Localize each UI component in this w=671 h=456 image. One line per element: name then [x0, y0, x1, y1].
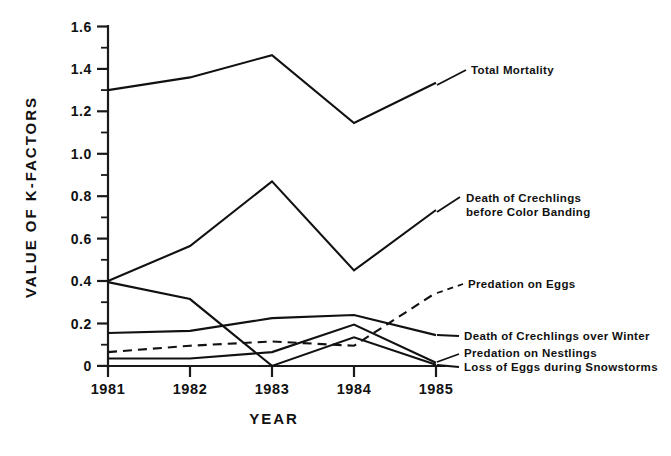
annotation-total-mortality: Total Mortality: [471, 64, 554, 76]
leader-total-mortality: [437, 70, 466, 85]
x-axis: 1981 1982 1983 1984 1985 YEAR: [91, 366, 454, 427]
y-label-1.0: 1.0: [71, 146, 92, 162]
y-label-0.4: 0.4: [71, 273, 92, 289]
series-group: [108, 55, 436, 366]
y-label-1.6: 1.6: [71, 19, 92, 35]
leader-crechlings-winter: [437, 335, 459, 336]
y-label-1.2: 1.2: [71, 103, 92, 119]
x-label-1982: 1982: [173, 381, 208, 397]
leader-crechlings-banding: [437, 197, 460, 212]
y-axis: 1.6 1.4 1.2 1.0 0.8 0.6 0.4 0.2 0 VALUE …: [22, 19, 108, 375]
y-axis-title: VALUE OF K-FACTORS: [22, 96, 39, 298]
leader-predation-nestlings: [437, 354, 459, 362]
series-predation-nestlings: [108, 325, 436, 363]
y-label-1.4: 1.4: [71, 61, 92, 77]
x-label-1984: 1984: [337, 381, 372, 397]
y-label-0.2: 0.2: [71, 316, 92, 332]
y-label-0.6: 0.6: [71, 231, 92, 247]
chart-page: 1.6 1.4 1.2 1.0 0.8 0.6 0.4 0.2 0 VALUE …: [0, 0, 671, 456]
annotation-loss-eggs-snow: Loss of Eggs during Snowstorms: [464, 361, 658, 373]
annotation-predation-eggs: Predation on Eggs: [468, 278, 576, 290]
y-label-0: 0: [84, 358, 92, 374]
leader-predation-eggs: [437, 284, 463, 293]
series-death-crechlings-before-banding: [108, 181, 436, 281]
x-label-1983: 1983: [255, 381, 290, 397]
series-total-mortality: [108, 55, 436, 123]
k-factor-line-chart: 1.6 1.4 1.2 1.0 0.8 0.6 0.4 0.2 0 VALUE …: [0, 0, 671, 456]
annotation-crechlings-banding-line1: Death of Crechlings: [466, 192, 581, 204]
annotation-crechlings-winter: Death of Crechlings over Winter: [464, 330, 650, 342]
x-label-1985: 1985: [419, 381, 454, 397]
x-label-1981: 1981: [91, 381, 126, 397]
annotation-crechlings-banding-line2: before Color Banding: [466, 206, 591, 218]
x-axis-title: YEAR: [249, 410, 299, 427]
annotation-predation-nestlings: Predation on Nestlings: [464, 347, 597, 359]
annotations-group: Total Mortality Death of Crechlings befo…: [437, 64, 658, 373]
y-label-0.8: 0.8: [71, 188, 92, 204]
